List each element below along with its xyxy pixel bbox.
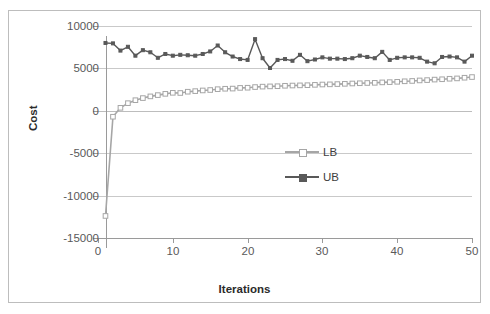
data-point-marker — [104, 41, 107, 44]
data-point-marker — [463, 60, 466, 63]
data-point-marker — [456, 56, 459, 59]
data-point-marker — [471, 54, 474, 57]
data-point-marker — [366, 55, 369, 58]
legend-swatch-lb — [285, 147, 319, 157]
data-point-marker — [335, 82, 340, 87]
data-point-marker — [103, 214, 108, 219]
data-point-marker — [403, 56, 406, 59]
data-point-marker — [163, 92, 168, 97]
legend-swatch-ub — [285, 172, 319, 182]
data-point-marker — [343, 82, 348, 87]
data-point-marker — [185, 89, 190, 94]
data-point-marker — [291, 59, 294, 62]
data-point-marker — [462, 75, 467, 80]
data-point-marker — [358, 54, 361, 57]
data-point-marker — [260, 84, 265, 89]
data-point-marker — [253, 85, 258, 90]
data-point-marker — [433, 62, 436, 65]
data-point-marker — [111, 42, 114, 45]
data-point-marker — [440, 77, 445, 82]
data-point-marker — [118, 106, 123, 111]
data-point-marker — [313, 58, 316, 61]
data-point-marker — [350, 81, 355, 86]
data-point-marker — [193, 89, 198, 94]
data-point-marker — [305, 83, 310, 88]
data-point-marker — [396, 56, 399, 59]
data-point-marker — [276, 58, 279, 61]
data-point-marker — [426, 60, 429, 63]
data-point-marker — [284, 58, 287, 61]
series-plot — [9, 11, 482, 304]
data-point-marker — [425, 78, 430, 83]
data-point-marker — [133, 98, 138, 103]
data-point-marker — [290, 83, 295, 88]
data-point-marker — [230, 86, 235, 91]
data-point-marker — [447, 76, 452, 81]
data-point-marker — [246, 58, 249, 61]
data-point-marker — [224, 51, 227, 54]
data-point-marker — [171, 91, 176, 96]
data-point-marker — [275, 84, 280, 89]
data-point-marker — [336, 57, 339, 60]
data-point-marker — [298, 53, 301, 56]
data-point-marker — [328, 82, 333, 87]
data-point-marker — [239, 58, 242, 61]
data-point-marker — [411, 56, 414, 59]
data-point-marker — [417, 78, 422, 83]
x-axis-title: Iterations — [9, 283, 480, 295]
data-point-marker — [365, 81, 370, 86]
legend-label-lb: LB — [323, 146, 337, 158]
data-point-marker — [402, 79, 407, 84]
legend-label-ub: UB — [323, 171, 339, 183]
data-point-marker — [283, 83, 288, 88]
data-point-marker — [306, 60, 309, 63]
legend-marker-lb — [299, 149, 307, 157]
data-point-marker — [126, 101, 131, 106]
data-point-marker — [455, 76, 460, 81]
legend-item-ub[interactable]: UB — [285, 164, 339, 189]
data-point-marker — [111, 114, 116, 119]
data-point-marker — [441, 55, 444, 58]
data-point-marker — [269, 66, 272, 69]
data-point-marker — [216, 44, 219, 47]
data-point-marker — [231, 55, 234, 58]
data-point-marker — [254, 38, 257, 41]
data-point-marker — [395, 80, 400, 85]
data-point-marker — [209, 50, 212, 53]
data-point-marker — [298, 83, 303, 88]
data-point-marker — [223, 86, 228, 91]
y-axis-title: Cost — [27, 105, 39, 131]
data-point-marker — [215, 87, 220, 92]
data-point-marker — [358, 81, 363, 86]
data-point-marker — [179, 53, 182, 56]
data-point-marker — [134, 54, 137, 57]
legend-item-lb[interactable]: LB — [285, 139, 339, 164]
data-point-marker — [321, 56, 324, 59]
data-point-marker — [470, 75, 475, 80]
data-point-marker — [149, 51, 152, 54]
data-point-marker — [268, 84, 273, 89]
data-point-marker — [178, 91, 183, 96]
data-point-marker — [343, 58, 346, 61]
data-point-marker — [320, 82, 325, 87]
data-point-marker — [126, 45, 129, 48]
data-point-marker — [380, 80, 385, 85]
data-point-marker — [372, 81, 377, 86]
data-point-marker — [381, 50, 384, 53]
data-point-marker — [208, 88, 213, 93]
data-point-marker — [351, 57, 354, 60]
data-point-marker — [418, 56, 421, 59]
data-point-marker — [448, 55, 451, 58]
data-point-marker — [328, 57, 331, 60]
data-point-marker — [245, 85, 250, 90]
data-point-marker — [313, 83, 318, 88]
chart-screenshot: 1000050000-5000-10000-15000 01020304050 … — [0, 0, 490, 314]
data-point-marker — [410, 79, 415, 84]
data-point-marker — [373, 57, 376, 60]
data-point-marker — [432, 77, 437, 82]
data-point-marker — [201, 52, 204, 55]
series-ub — [104, 38, 474, 70]
legend: LB UB — [285, 139, 339, 189]
data-point-marker — [156, 56, 159, 59]
data-point-marker — [141, 49, 144, 52]
